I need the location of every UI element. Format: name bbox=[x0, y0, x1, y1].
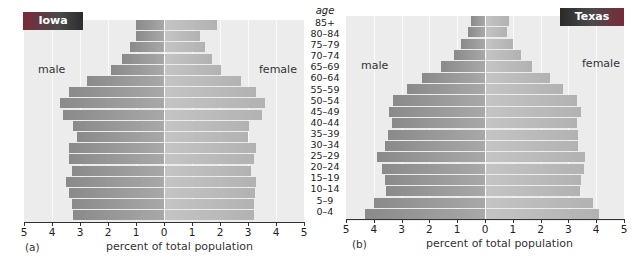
female-bar bbox=[486, 39, 513, 49]
female-bar bbox=[486, 209, 599, 219]
x-tick-label: 4 bbox=[367, 223, 381, 235]
x-tick-label: 3 bbox=[395, 223, 409, 235]
male-bar bbox=[392, 118, 485, 128]
male-bar bbox=[454, 50, 485, 60]
x-tick-label: 4 bbox=[589, 223, 603, 235]
female-bar bbox=[486, 186, 580, 196]
x-tick-label: 1 bbox=[506, 223, 520, 235]
female-bar bbox=[486, 198, 593, 208]
female-bar bbox=[486, 16, 509, 26]
male-bar bbox=[389, 107, 485, 117]
male-bar bbox=[374, 198, 485, 208]
male-bar bbox=[382, 164, 485, 174]
female-bar bbox=[486, 107, 581, 117]
male-bar bbox=[441, 61, 485, 71]
female-bar bbox=[486, 141, 578, 151]
male-bar bbox=[385, 175, 485, 185]
texas-panel: Texas male female 54321012345 (b) percen… bbox=[0, 0, 642, 269]
male-bar bbox=[377, 152, 485, 162]
male-bar bbox=[365, 209, 485, 219]
texas-title-badge: Texas bbox=[560, 8, 624, 26]
male-bar bbox=[471, 16, 485, 26]
male-bar bbox=[422, 73, 485, 83]
texas-female-label: female bbox=[582, 57, 620, 70]
female-bar bbox=[486, 118, 577, 128]
x-tick-label: 0 bbox=[478, 223, 492, 235]
male-bar bbox=[393, 95, 485, 105]
female-bar bbox=[486, 130, 578, 140]
female-bar bbox=[486, 50, 521, 60]
texas-male-label: male bbox=[361, 59, 388, 72]
gridline bbox=[374, 16, 375, 219]
female-bar bbox=[486, 73, 550, 83]
x-tick-label: 5 bbox=[339, 223, 353, 235]
x-tick-label: 2 bbox=[534, 223, 548, 235]
female-bar bbox=[486, 175, 581, 185]
female-bar bbox=[486, 152, 585, 162]
x-tick-label: 3 bbox=[561, 223, 575, 235]
texas-panel-tag: (b) bbox=[352, 238, 367, 250]
female-bar bbox=[486, 95, 577, 105]
male-bar bbox=[461, 39, 485, 49]
male-bar bbox=[388, 130, 485, 140]
male-bar bbox=[386, 186, 485, 196]
x-tick-label: 5 bbox=[617, 223, 631, 235]
male-bar bbox=[407, 84, 485, 94]
gridline bbox=[596, 16, 597, 219]
male-bar bbox=[468, 27, 485, 37]
texas-x-axis-label: percent of total population bbox=[426, 237, 573, 250]
female-bar bbox=[486, 27, 507, 37]
male-bar bbox=[385, 141, 485, 151]
female-bar bbox=[486, 164, 584, 174]
female-bar bbox=[486, 61, 532, 71]
x-tick-label: 1 bbox=[450, 223, 464, 235]
x-tick-label: 2 bbox=[422, 223, 436, 235]
female-bar bbox=[486, 84, 563, 94]
